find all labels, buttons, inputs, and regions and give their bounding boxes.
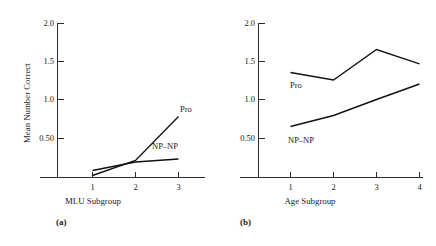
panel-a-series-label-npnp: NP–NP [152,142,178,151]
panel-b-ytick-label-1.0: 1.0 [223,95,255,104]
panel-a-caption: (a) [56,218,67,227]
panel-b-ytick-label-0.50: 0.50 [219,134,255,143]
panel-b-xtick-label-3: 3 [366,183,387,192]
panel-a-xtick-label-1: 1 [82,183,103,192]
panel-a-ytick-label-2.0: 2.0 [22,19,54,28]
chart-panel-b: 2.0 1.5 1.0 0.50 1 2 3 4 Age Subgroup Pr… [218,0,436,246]
panel-a-xtick-label-3: 3 [168,183,189,192]
panel-b-xtick-label-4: 4 [409,183,430,192]
panel-b-ytick-label-1.5: 1.5 [223,57,255,66]
panel-a-xtick-label-2: 2 [125,183,146,192]
panel-b-series-npnp-line [291,84,420,127]
panel-b-ytick-label-2.0: 2.0 [223,19,255,28]
panel-a-ytick-label-0.50: 0.50 [18,134,54,143]
panel-b-xtick-label-2: 2 [323,183,344,192]
panel-a-series-label-pro: Pro [180,105,192,114]
panel-b-series-pro-line [291,50,420,81]
panel-a-ytick-label-1.5: 1.5 [22,57,54,66]
panel-b-plot-area [218,0,436,246]
panel-b-xtick-label-1: 1 [280,183,301,192]
panel-a-x-axis-title: MLU Subgroup [43,197,143,206]
panel-b-series-label-pro: Pro [290,81,302,90]
panel-a-ytick-label-1.0: 1.0 [22,95,54,104]
chart-panel-a: Mean Number Correct 2.0 1.5 1.0 0.50 1 2… [0,0,218,246]
panel-b-x-axis-title: Age Subgroup [260,197,360,206]
panel-b-series-label-npnp: NP–NP [288,136,314,145]
panel-a-plot-area [0,0,218,246]
panel-b-caption: (b) [240,218,251,227]
figure-container: Mean Number Correct 2.0 1.5 1.0 0.50 1 2… [0,0,436,246]
